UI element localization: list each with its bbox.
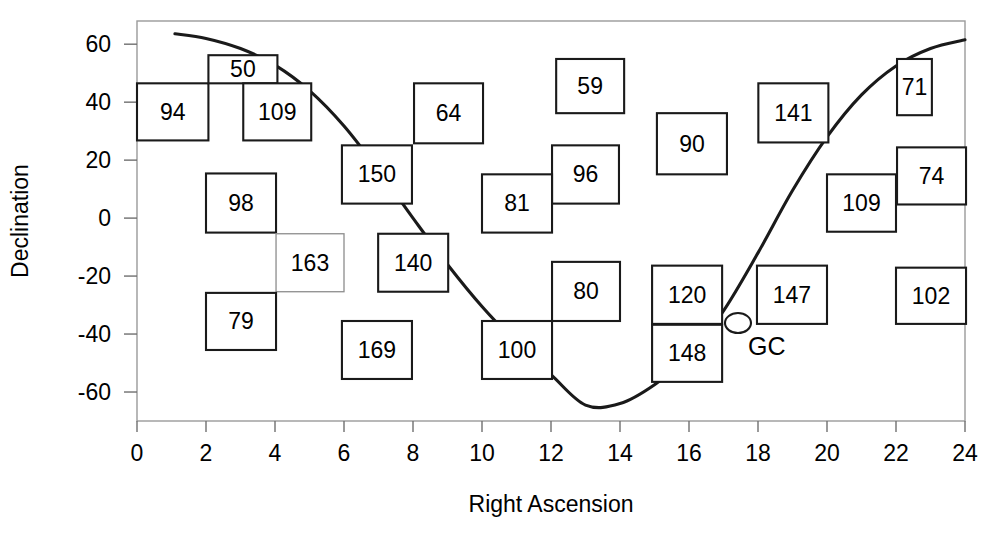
x-axis-title: Right Ascension: [469, 491, 634, 517]
y-tick-label--20: -20: [78, 263, 111, 289]
box-value-label: 71: [902, 74, 928, 100]
box-value-label: 140: [394, 250, 432, 276]
box-value-label: 169: [358, 337, 396, 363]
x-tick-label-22: 22: [883, 440, 909, 466]
data-box-layer: 9450109645914171901509681981097416314079…: [137, 55, 966, 382]
box-value-label: 81: [504, 190, 530, 216]
box-value-label: 147: [773, 282, 811, 308]
box-value-label: 79: [228, 308, 254, 334]
data-box: 96: [552, 145, 619, 203]
data-box: 59: [556, 59, 624, 113]
x-tick-label-16: 16: [676, 440, 702, 466]
x-tick-label-0: 0: [131, 440, 144, 466]
data-box: 74: [897, 147, 966, 204]
y-axis-title: Declination: [7, 164, 33, 278]
box-value-label: 163: [291, 250, 329, 276]
y-tick-label-60: 60: [85, 31, 111, 57]
x-tick-label-10: 10: [469, 440, 495, 466]
box-value-label: 50: [230, 56, 256, 82]
box-value-label: 109: [258, 99, 296, 125]
box-value-label: 98: [228, 190, 254, 216]
data-box: 150: [342, 145, 412, 203]
x-axis-tick-labels: 024681012141618202224: [131, 440, 978, 466]
x-tick-label-2: 2: [200, 440, 213, 466]
data-box: 81: [482, 174, 552, 232]
data-box: 80: [552, 262, 620, 321]
data-box: 109: [827, 174, 896, 231]
x-tick-label-4: 4: [269, 440, 282, 466]
y-tick-label-0: 0: [98, 205, 111, 231]
x-tick-label-8: 8: [407, 440, 420, 466]
y-tick-label--60: -60: [78, 379, 111, 405]
x-axis-ticks: [137, 421, 965, 432]
x-tick-label-20: 20: [814, 440, 840, 466]
data-box: 141: [758, 83, 828, 142]
data-box: 163: [276, 234, 344, 292]
data-box: 94: [137, 83, 208, 140]
data-box: 100: [482, 321, 552, 379]
data-box: 140: [378, 234, 448, 292]
y-tick-label-20: 20: [85, 147, 111, 173]
data-box: 148: [652, 325, 722, 382]
data-box: 169: [342, 321, 412, 379]
box-value-label: 64: [436, 100, 462, 126]
box-value-label: 120: [668, 282, 706, 308]
data-box: 50: [208, 55, 277, 83]
data-box: 71: [897, 59, 932, 115]
x-tick-label-24: 24: [952, 440, 978, 466]
box-value-label: 100: [498, 337, 536, 363]
galactic-center-icon: [725, 313, 751, 333]
data-box: 90: [657, 113, 727, 174]
box-value-label: 150: [358, 161, 396, 187]
data-box: 120: [652, 266, 722, 324]
box-value-label: 74: [919, 163, 945, 189]
x-tick-label-18: 18: [745, 440, 771, 466]
data-box: 98: [206, 173, 276, 232]
box-value-label: 90: [679, 131, 705, 157]
x-tick-label-6: 6: [338, 440, 351, 466]
data-box: 147: [757, 266, 827, 324]
data-box: 109: [243, 83, 311, 140]
x-tick-label-14: 14: [607, 440, 633, 466]
y-axis-tick-labels: 6040200-20-40-60: [78, 31, 111, 405]
x-tick-label-12: 12: [538, 440, 564, 466]
data-box: 79: [206, 293, 276, 350]
box-value-label: 94: [160, 99, 186, 125]
declination-vs-right-ascension-chart: 024681012141618202224 6040200-20-40-60 9…: [0, 0, 1005, 551]
chart-container: 024681012141618202224 6040200-20-40-60 9…: [0, 0, 1005, 551]
data-box: 64: [414, 83, 483, 143]
box-value-label: 80: [573, 278, 599, 304]
box-value-label: 141: [774, 100, 812, 126]
box-value-label: 109: [842, 190, 880, 216]
box-value-label: 148: [668, 340, 706, 366]
box-value-label: 96: [573, 161, 599, 187]
y-tick-label-40: 40: [85, 89, 111, 115]
box-value-label: 59: [577, 73, 603, 99]
y-tick-label--40: -40: [78, 321, 111, 347]
y-axis-ticks: [124, 44, 137, 392]
box-value-label: 102: [912, 283, 950, 309]
galactic-center-label: GC: [748, 332, 786, 360]
data-box: 102: [896, 268, 966, 324]
